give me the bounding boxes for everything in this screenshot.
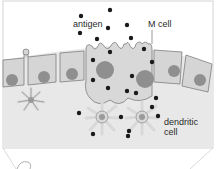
antigen-label: antigen [73, 20, 103, 29]
zoom-callout-lines [3, 148, 213, 169]
dendritic-cell-label-line2: cell [164, 128, 178, 137]
dendritic-nucleus-left [28, 97, 34, 103]
diagram: antigen M cell dendritic cell [0, 0, 216, 169]
m-cell-label: M cell [148, 20, 172, 29]
diagram-canvas [0, 0, 216, 169]
dendritic-cell-label-line1: dendritic [164, 118, 198, 127]
goblet-stalk [23, 49, 29, 58]
